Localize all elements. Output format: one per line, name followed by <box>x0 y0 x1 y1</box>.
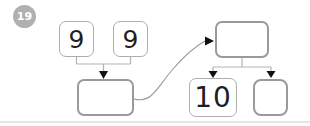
worksheet-panel: 19 9 9 10 <box>0 0 310 126</box>
total-answer-box[interactable] <box>215 21 269 58</box>
down-arrowhead-icon <box>267 71 276 78</box>
right-arrowhead-icon <box>205 37 214 46</box>
addend-box-1: 9 <box>59 21 94 57</box>
sum-answer-box[interactable] <box>77 79 134 116</box>
addend-box-2: 9 <box>113 21 148 57</box>
part-answer-box[interactable] <box>253 79 288 116</box>
down-arrowhead-icon <box>99 71 108 79</box>
down-arrowhead-icon <box>209 71 218 78</box>
addend-value: 9 <box>69 27 85 52</box>
bottom-divider <box>0 121 310 123</box>
addend-value: 9 <box>123 27 139 52</box>
connector-line <box>77 57 131 71</box>
tree-connector-right <box>213 58 271 71</box>
problem-number: 19 <box>17 10 32 23</box>
problem-number-badge: 19 <box>13 5 36 28</box>
connector-line <box>213 58 271 71</box>
part-box-ten: 10 <box>189 78 237 117</box>
tree-connector-left <box>77 57 131 71</box>
part-value: 10 <box>194 84 232 112</box>
